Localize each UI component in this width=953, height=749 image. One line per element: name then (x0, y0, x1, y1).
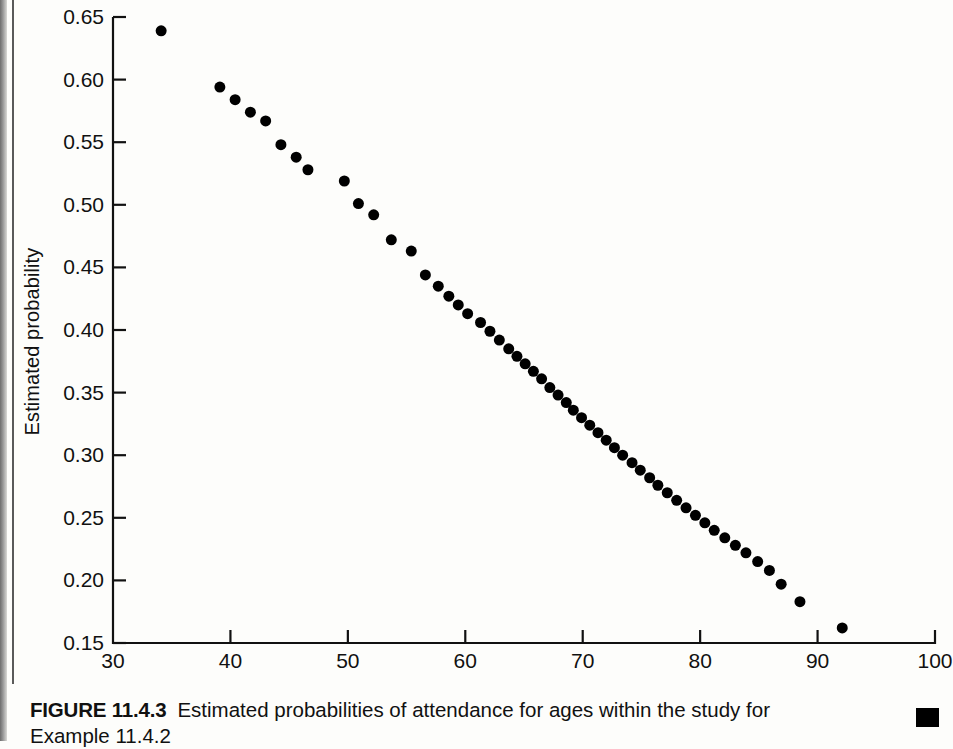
figure-caption-line-2: Example 11.4.2 (30, 723, 910, 749)
data-point (494, 335, 505, 346)
x-axis-tick-label: 90 (806, 649, 829, 672)
data-point (584, 420, 595, 431)
data-point (690, 510, 701, 521)
data-point (406, 246, 417, 257)
data-point (699, 517, 710, 528)
data-point (536, 373, 547, 384)
y-axis-tick-label: 0.45 (63, 255, 104, 278)
data-point (230, 94, 241, 105)
data-point (544, 382, 555, 393)
data-point (553, 390, 564, 401)
figure-caption-line-1: Estimated probabilities of attendance fo… (177, 698, 770, 721)
data-point (662, 487, 673, 498)
data-point (794, 596, 805, 607)
data-point (776, 579, 787, 590)
data-point (475, 317, 486, 328)
data-point (719, 532, 730, 543)
x-axis-tick-label: 60 (454, 649, 477, 672)
data-point (837, 622, 848, 633)
data-point (511, 351, 522, 362)
data-point (568, 405, 579, 416)
data-point (528, 366, 539, 377)
y-axis-tick-label: 0.65 (63, 5, 104, 28)
x-axis-tick-label: 40 (219, 649, 242, 672)
data-point (644, 472, 655, 483)
data-point (433, 281, 444, 292)
data-point (353, 198, 364, 209)
data-point (214, 82, 225, 93)
y-axis-tick-label: 0.50 (63, 193, 104, 216)
data-point (652, 480, 663, 491)
data-point (627, 457, 638, 468)
data-point (601, 435, 612, 446)
y-axis-tick-label: 0.40 (63, 318, 104, 341)
data-point (339, 176, 350, 187)
data-point (443, 291, 454, 302)
y-axis-tick-label: 0.25 (63, 506, 104, 529)
data-point (368, 209, 379, 220)
data-point (617, 450, 628, 461)
data-point (453, 299, 464, 310)
data-point (740, 547, 751, 558)
data-point (420, 269, 431, 280)
data-point (503, 343, 514, 354)
y-axis-tick-label: 0.30 (63, 443, 104, 466)
data-point (609, 442, 620, 453)
x-axis-tick-label: 70 (571, 649, 594, 672)
y-axis-tick-label: 0.20 (63, 568, 104, 591)
data-point (752, 556, 763, 567)
y-axis-tick-label: 0.35 (63, 381, 104, 404)
data-point (576, 412, 587, 423)
y-axis-tick-label: 0.15 (63, 631, 104, 654)
figure-caption: FIGURE 11.4.3Estimated probabilities of … (30, 697, 910, 749)
data-point (671, 495, 682, 506)
data-point (764, 565, 775, 576)
data-point (386, 234, 397, 245)
data-point-series (156, 25, 848, 633)
section-end-square-icon (916, 708, 939, 727)
y-axis-tick-label: 0.60 (63, 68, 104, 91)
axis-frame (113, 17, 935, 643)
data-point (462, 308, 473, 319)
data-point (592, 427, 603, 438)
y-axis-label: Estimated probability (21, 192, 44, 492)
data-point (635, 465, 646, 476)
x-axis-tick-label: 50 (336, 649, 359, 672)
data-point (709, 525, 720, 536)
data-point (520, 358, 531, 369)
x-axis-tick-label: 30 (101, 649, 124, 672)
x-axis-tick-label: 100 (917, 649, 952, 672)
figure-number: FIGURE 11.4.3 (30, 698, 166, 721)
data-point (156, 25, 167, 36)
data-point (260, 115, 271, 126)
y-axis-tick-label: 0.55 (63, 130, 104, 153)
data-point (245, 107, 256, 118)
data-point (681, 502, 692, 513)
data-point (730, 540, 741, 551)
x-axis-tick-label: 80 (688, 649, 711, 672)
data-point (275, 139, 286, 150)
data-point (302, 164, 313, 175)
data-point (291, 152, 302, 163)
data-point (484, 326, 495, 337)
